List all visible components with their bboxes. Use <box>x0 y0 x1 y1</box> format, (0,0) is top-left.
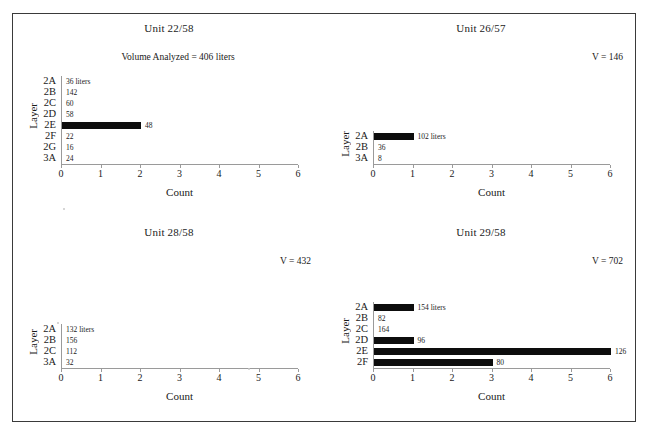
category-label: 2E <box>44 119 56 130</box>
x-tick-label: 6 <box>608 372 613 383</box>
x-tick-label: 3 <box>489 168 494 179</box>
bar-value-label: 96 <box>418 335 426 346</box>
bar-row: 3A32 <box>61 357 298 368</box>
chart-panel: Unit 29/58V = 7022A154 liters2B822C1642D… <box>325 220 637 424</box>
bar-value-label: 156 <box>66 335 77 346</box>
x-tick-label: 5 <box>568 168 573 179</box>
figure-frame: Unit 22/58Volume Analyzed = 406 liters2A… <box>12 13 636 422</box>
bar-value-label: 8 <box>378 153 382 164</box>
bar-value-label: 142 <box>66 87 77 98</box>
x-tick-label: 0 <box>59 168 64 179</box>
x-axis-label: Count <box>373 390 610 402</box>
x-tick-label: 0 <box>371 372 376 383</box>
bar-row: 2B36 <box>373 142 610 153</box>
bar-value-label: 126 <box>615 346 626 357</box>
category-label: 3A <box>43 152 56 163</box>
y-axis-label: Layer <box>27 329 39 355</box>
y-axis-label: Layer <box>339 131 351 157</box>
x-tick-label: 2 <box>138 168 143 179</box>
bar-value-label: 36 <box>378 142 386 153</box>
bar <box>374 304 414 311</box>
category-label: 2C <box>44 345 56 356</box>
x-tick-label: 1 <box>98 372 103 383</box>
chart-panel: Unit 26/57V = 1462A102 liters2B363A80123… <box>325 16 637 220</box>
x-tick-label: 0 <box>59 372 64 383</box>
x-tick-label: 3 <box>177 372 182 383</box>
scan-speck <box>248 368 250 370</box>
bar-value-label: 24 <box>66 153 74 164</box>
category-label: 2F <box>45 130 56 141</box>
category-label: 2G <box>43 141 56 152</box>
category-label: 2D <box>43 108 56 119</box>
category-label: 2B <box>44 334 56 345</box>
x-axis-label: Count <box>61 186 298 198</box>
bar-row: 2D96 <box>373 335 610 346</box>
x-tick-label: 4 <box>529 168 534 179</box>
bar-row: 2B156 <box>61 335 298 346</box>
bar-value-label: 48 <box>145 120 153 131</box>
bar <box>374 133 414 140</box>
category-label: 2E <box>356 345 368 356</box>
bar <box>374 337 414 344</box>
bar-row: 2F80 <box>373 357 610 368</box>
plot-area: 2A36 liters2B1422C602D582E482F222G163A24… <box>61 16 298 198</box>
bar-row: 3A8 <box>373 153 610 164</box>
bar-value-label: 164 <box>378 324 389 335</box>
category-label: 3A <box>355 152 368 163</box>
x-tick-label: 5 <box>256 168 261 179</box>
bar-row: 2E48 <box>61 120 298 131</box>
category-label: 2B <box>44 86 56 97</box>
scan-speck <box>57 322 59 324</box>
bar <box>374 348 611 355</box>
x-tick-label: 3 <box>177 168 182 179</box>
bar-value-label: 154 liters <box>418 302 446 313</box>
x-tick-label: 4 <box>217 168 222 179</box>
y-axis-label: Layer <box>27 103 39 129</box>
bar-value-label: 80 <box>497 357 505 368</box>
x-axis-ticks: 0123456 <box>61 165 298 179</box>
x-tick-label: 6 <box>296 372 301 383</box>
x-axis-ticks: 0123456 <box>61 369 298 383</box>
bar-row: 2F22 <box>61 131 298 142</box>
category-label: 2F <box>357 356 368 367</box>
x-axis-label: Count <box>61 390 298 402</box>
bar-value-label: 60 <box>66 98 74 109</box>
x-tick-label: 1 <box>410 372 415 383</box>
bar-row: 2A102 liters <box>373 131 610 142</box>
bar-row: 2B82 <box>373 313 610 324</box>
bar-row: 2B142 <box>61 87 298 98</box>
bar-value-label: 32 <box>66 357 74 368</box>
bar-row: 2G16 <box>61 142 298 153</box>
bar-row: 2E126 <box>373 346 610 357</box>
bar-rows: 2A154 liters2B822C1642D962E1262F80 <box>373 302 610 368</box>
x-axis-ticks: 0123456 <box>373 369 610 383</box>
x-tick-label: 1 <box>98 168 103 179</box>
category-label: 2A <box>43 75 56 86</box>
bar-value-label: 82 <box>378 313 386 324</box>
panel-grid: Unit 22/58Volume Analyzed = 406 liters2A… <box>13 14 635 421</box>
x-tick-label: 3 <box>489 372 494 383</box>
bar-value-label: 112 <box>66 346 77 357</box>
category-label: 2C <box>44 97 56 108</box>
category-label: 2A <box>355 301 368 312</box>
bar <box>62 122 141 129</box>
bar-row: 3A24 <box>61 153 298 164</box>
x-tick-label: 5 <box>568 372 573 383</box>
bar-row: 2C60 <box>61 98 298 109</box>
scan-speck <box>63 208 65 210</box>
category-label: 2D <box>355 334 368 345</box>
x-axis-ticks: 0123456 <box>373 165 610 179</box>
plot-area: 2A154 liters2B822C1642D962E1262F80012345… <box>373 220 610 402</box>
x-tick-label: 6 <box>608 168 613 179</box>
bar-value-label: 102 liters <box>418 131 446 142</box>
bar-value-label: 58 <box>66 109 74 120</box>
chart-panel: Unit 22/58Volume Analyzed = 406 liters2A… <box>13 16 325 220</box>
x-tick-label: 1 <box>410 168 415 179</box>
bar-row: 2A132 liters <box>61 324 298 335</box>
bar-rows: 2A36 liters2B1422C602D582E482F222G163A24 <box>61 76 298 164</box>
bar <box>374 359 493 366</box>
bar-value-label: 16 <box>66 142 74 153</box>
category-label: 2A <box>355 130 368 141</box>
bar-row: 2C112 <box>61 346 298 357</box>
x-tick-label: 6 <box>296 168 301 179</box>
